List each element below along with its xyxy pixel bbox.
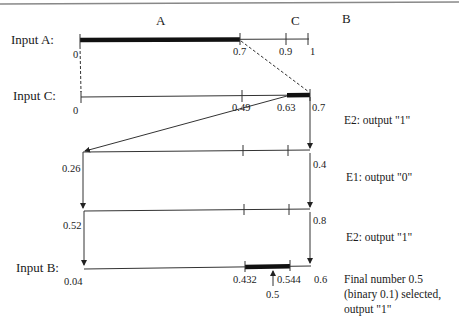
final-note-line1: Final number 0.5	[344, 272, 423, 286]
input-c-line	[81, 89, 310, 103]
tick-b-0.544: 0.544	[277, 275, 301, 286]
input-c-label: Input C:	[13, 89, 56, 102]
label-b: B	[342, 12, 351, 25]
step-1-note: E2: output "1"	[344, 113, 410, 127]
tick-b-0.04: 0.04	[64, 277, 82, 288]
final-note-line3: output "1"	[344, 302, 391, 316]
tick-c-0.49: 0.49	[232, 103, 250, 114]
tick-r3-0.4: 0.4	[313, 160, 326, 171]
tick-r3-0.26: 0.26	[62, 164, 80, 175]
tick-a-0.9: 0.9	[279, 47, 292, 58]
tick-a-1: 1	[310, 47, 315, 58]
row3-line	[83, 145, 310, 156]
tick-b-0.6: 0.6	[314, 275, 327, 286]
dashed-map-right	[241, 41, 309, 92]
tick-r4-0.52: 0.52	[63, 221, 81, 232]
dashed-map-left	[80, 46, 81, 92]
label-a: A	[156, 14, 165, 27]
input-b-label: Input B:	[16, 261, 59, 274]
tick-c-0: 0	[73, 106, 78, 117]
tick-a-0: 0	[73, 50, 78, 61]
tick-c-0.63: 0.63	[277, 103, 295, 114]
row4-line	[84, 204, 310, 215]
final-note-line2: (binary 0.1) selected,	[344, 287, 441, 301]
input-a-line	[80, 33, 309, 46]
tick-r4-0.8: 0.8	[313, 216, 326, 227]
mapping-arrow-diagonal	[85, 96, 287, 151]
tick-c-0.7: 0.7	[312, 103, 325, 114]
tick-a-0.7: 0.7	[233, 47, 246, 58]
tick-b-0.5: 0.5	[266, 290, 279, 301]
step-2-note: E1: output "0"	[346, 170, 412, 184]
label-c: C	[291, 14, 300, 27]
top-rule	[0, 2, 459, 4]
tick-b-0.432: 0.432	[233, 275, 257, 286]
step-3-note: E2: output "1"	[346, 230, 412, 244]
input-a-label: Input A:	[11, 33, 54, 46]
